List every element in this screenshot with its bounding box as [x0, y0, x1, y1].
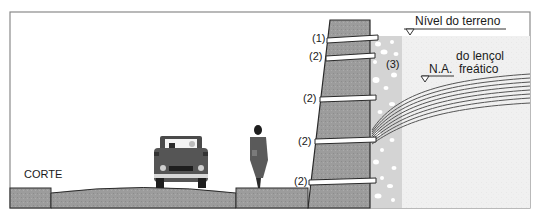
tie-label-3: (2)	[303, 93, 316, 104]
road-slab	[51, 188, 236, 209]
drain-label: (3)	[386, 59, 399, 70]
water-table-label-line1: do lençol	[456, 50, 504, 62]
sidewalk	[236, 188, 308, 208]
tie-label-2: (2)	[309, 51, 322, 62]
left-curb	[10, 188, 51, 208]
diagram-canvas	[0, 0, 543, 218]
water-table-label-line2: freático	[459, 63, 498, 75]
car	[154, 136, 208, 188]
tie-label-4: (2)	[298, 136, 311, 147]
water-table-prefix: N.A.	[429, 63, 452, 75]
tie-label-1: (1)	[312, 33, 325, 44]
section-title: CORTE	[24, 169, 62, 180]
tie-label-5: (2)	[294, 176, 307, 187]
retaining-wall-diagram: CORTE (1) (2) (2) (2) (2) (3) Nível do t…	[0, 0, 543, 218]
ground-level-label: Nível do terreno	[415, 15, 500, 27]
